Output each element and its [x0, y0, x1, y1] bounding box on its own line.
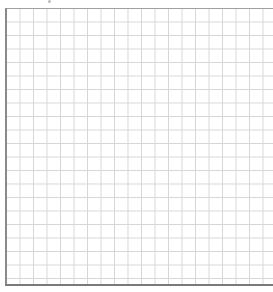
scan-mark [48, 0, 51, 3]
graph-paper-grid [5, 8, 273, 286]
